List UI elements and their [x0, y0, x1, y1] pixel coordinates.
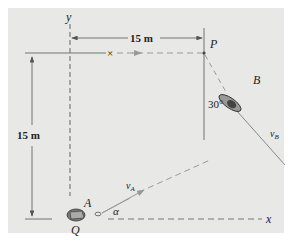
cross-mark: × [107, 47, 113, 59]
velocity-a-label: vA [126, 180, 135, 193]
angle-alpha-label: α [113, 205, 119, 217]
kinematics-diagram: y 15 m × P B 30° vB 15 m vA A α Q x [0, 0, 292, 249]
velocity-a-arrow [102, 190, 144, 213]
path-b-dashed [205, 55, 226, 92]
vertical-dimension-label: 15 m [17, 129, 40, 141]
path-a-dashed [148, 160, 210, 188]
point-p [202, 51, 205, 54]
boat-a-icon [67, 209, 101, 221]
angle-30-label: 30° [208, 98, 223, 110]
point-p-label: P [209, 37, 218, 51]
horizontal-dimension-label: 15 m [130, 32, 153, 44]
y-axis-label: y [65, 10, 72, 24]
point-q-label: Q [71, 223, 80, 237]
velocity-b-label: vB [270, 128, 279, 141]
boat-b-label: B [253, 73, 261, 87]
x-axis-label: x [265, 212, 272, 226]
boat-a-label: A [83, 196, 92, 210]
